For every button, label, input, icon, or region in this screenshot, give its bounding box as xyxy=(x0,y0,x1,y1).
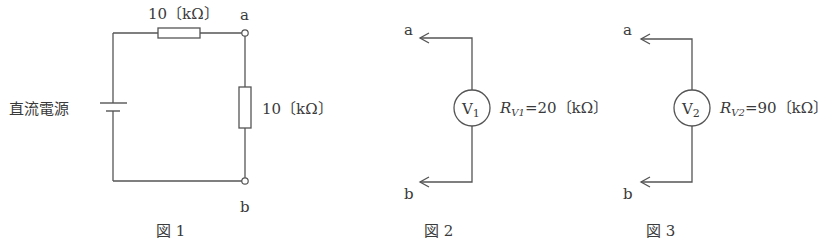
dc-source-label: 直流電源 xyxy=(9,100,69,118)
resistor-right-label: 10〔kΩ〕 xyxy=(262,100,333,118)
terminal-a-label: a xyxy=(623,21,632,39)
lead-b-wire xyxy=(420,126,472,182)
voltmeter-1-resistance: RV1=20〔kΩ〕 xyxy=(499,99,608,118)
terminal-a-label: a xyxy=(240,6,249,24)
lead-b-wire xyxy=(641,126,692,182)
figure-3: V2 a b RV2=90〔kΩ〕 図 3 xyxy=(623,21,828,240)
lead-a-wire xyxy=(641,39,692,90)
figure-1: 10〔kΩ〕 a 10〔kΩ〕 直流電源 b 図 1 xyxy=(9,5,333,240)
terminal-a-label: a xyxy=(404,21,413,39)
figure-2: V1 a b RV1=20〔kΩ〕 図 2 xyxy=(404,21,608,240)
terminal-b-label: b xyxy=(623,185,633,203)
figure-1-caption: 図 1 xyxy=(156,222,185,240)
terminal-b-icon xyxy=(242,178,248,184)
figure-3-caption: 図 3 xyxy=(646,222,675,240)
terminal-b-label: b xyxy=(240,198,250,216)
circuit-diagram: 10〔kΩ〕 a 10〔kΩ〕 直流電源 b 図 1 V1 a b RV1=20… xyxy=(0,0,836,244)
lead-a-wire xyxy=(420,38,472,90)
figure-2-caption: 図 2 xyxy=(424,222,453,240)
resistor-top-label: 10〔kΩ〕 xyxy=(148,5,219,23)
terminal-b-label: b xyxy=(404,185,414,203)
voltmeter-2-resistance: RV2=90〔kΩ〕 xyxy=(719,99,828,118)
resistor-right-icon xyxy=(239,87,251,128)
resistor-top-icon xyxy=(158,28,200,38)
terminal-a-icon xyxy=(242,30,248,36)
